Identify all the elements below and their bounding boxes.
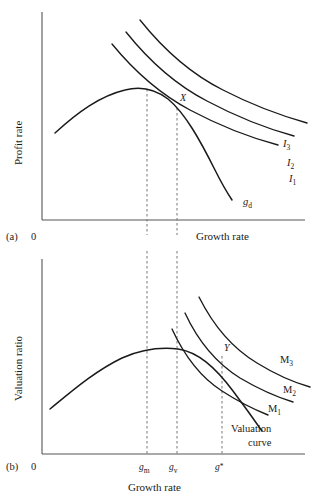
panel-a-profit-rate: X I3 I2 I1 gd Profit rate Growth rate (a…	[0, 0, 313, 251]
panel-b-point-y: Y	[224, 342, 231, 353]
panel-b-xtick-gstar: g*	[215, 462, 224, 472]
panel-b-origin-label: 0	[31, 461, 36, 472]
panel-b-valuation-ratio: Y M3 M2 M1 Valuation curve gm gv g* Valu…	[0, 251, 313, 502]
panel-a-plot: X I3 I2 I1 gd Profit rate Growth rate (a…	[0, 0, 313, 251]
panel-b-label-m1: M1	[268, 403, 281, 417]
panel-b-panel-label: (b)	[6, 461, 19, 473]
panel-b-curve-m3	[199, 297, 310, 387]
panel-a-curve-i3	[140, 20, 307, 123]
panel-b-y-axis-label: Valuation ratio	[12, 335, 24, 401]
panel-a-origin-label: 0	[31, 231, 36, 242]
panel-b-valuation-annotation-line2: curve	[248, 437, 272, 448]
panel-b-valuation-annotation-line1: Valuation	[231, 423, 272, 434]
panel-a-point-x: X	[179, 92, 187, 103]
panel-a-label-i3: I3	[282, 138, 291, 152]
panel-b-label-m3: M3	[280, 354, 293, 368]
panel-b-curve-m1	[172, 329, 268, 415]
economics-two-panel-figure: X I3 I2 I1 gd Profit rate Growth rate (a…	[0, 0, 313, 502]
panel-a-label-i2: I2	[286, 157, 295, 171]
panel-b-xtick-gm: gm	[139, 462, 150, 475]
panel-b-xtick-gv: gv	[169, 462, 178, 475]
panel-b-label-m2: M2	[283, 384, 296, 398]
panel-a-curve-gd	[55, 88, 232, 200]
panel-a-label-i1: I1	[288, 173, 297, 187]
panel-a-x-axis-label: Growth rate	[196, 230, 249, 242]
panel-a-panel-label: (a)	[6, 231, 18, 243]
panel-b-plot: Y M3 M2 M1 Valuation curve gm gv g* Valu…	[0, 251, 313, 502]
panel-a-y-axis-label: Profit rate	[12, 121, 24, 165]
panel-b-curve-valuation	[50, 348, 262, 431]
panel-b-curve-m2	[185, 313, 293, 402]
panel-a-label-gd: gd	[243, 196, 252, 210]
panel-b-x-axis-label: Growth rate	[128, 481, 181, 493]
